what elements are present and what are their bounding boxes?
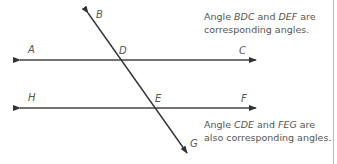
transversal-BG [88, 13, 187, 153]
angle-name: CDE [234, 119, 254, 130]
note-bottom-line1: Angle CDE and FEG are [204, 118, 331, 131]
point-label-E: E [155, 93, 161, 104]
point-label-H: H [28, 92, 36, 103]
point-label-C: C [239, 45, 246, 56]
note-text: Angle [204, 119, 234, 130]
corresponding-angles-diagram: A B C D H E F G Angle BDC and DEF are co… [0, 0, 337, 164]
note-top-line2: corresponding angles. [204, 23, 316, 36]
point-label-D: D [119, 45, 127, 56]
point-label-G: G [190, 138, 198, 149]
note-text: and [255, 11, 279, 22]
point-label-F: F [241, 93, 247, 104]
note-bottom-line2: also corresponding angles. [204, 131, 331, 144]
right-border-divider [333, 0, 334, 164]
angle-name: DEF [278, 11, 297, 22]
note-top: Angle BDC and DEF are corresponding angl… [204, 10, 316, 36]
note-text: and [254, 119, 278, 130]
note-text: are [297, 11, 315, 22]
note-text: are [297, 119, 315, 130]
angle-name: BDC [234, 11, 254, 22]
note-bottom: Angle CDE and FEG are also corresponding… [204, 118, 331, 144]
note-top-line1: Angle BDC and DEF are [204, 10, 316, 23]
angle-name: FEG [278, 119, 297, 130]
point-label-A: A [28, 44, 35, 55]
note-text: Angle [204, 11, 234, 22]
point-label-B: B [96, 9, 103, 20]
